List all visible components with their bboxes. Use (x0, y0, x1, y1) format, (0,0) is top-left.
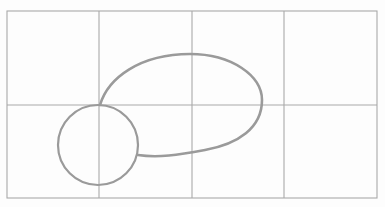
sketch-drawing (0, 0, 385, 207)
small-circle (58, 105, 138, 185)
sketch-shapes (58, 54, 262, 185)
grid (7, 11, 377, 198)
sketch-canvas (0, 0, 385, 207)
